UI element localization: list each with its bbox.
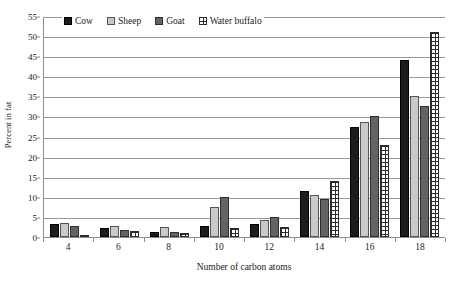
bar-group-18: [395, 17, 445, 237]
x-tick-label-6: 6: [93, 242, 143, 256]
y-tick-label-10: 10: [28, 193, 37, 203]
bar-water-buffalo-12[interactable]: [280, 227, 289, 237]
bar-group-6: [94, 17, 144, 237]
y-tick-label-15: 15: [28, 173, 37, 183]
legend-label-sheep: Sheep: [118, 16, 141, 26]
bar-water-buffalo-10[interactable]: [230, 228, 239, 237]
y-axis-tick-labels: 0510152025303540455055: [16, 12, 40, 238]
y-tick-mark-45: [37, 57, 40, 58]
y-tick-mark-40: [37, 77, 40, 78]
y-tick-label-20: 20: [28, 153, 37, 163]
y-tick-mark-0: [37, 238, 40, 239]
y-tick-mark-5: [37, 217, 40, 218]
x-tick-label-16: 16: [345, 242, 395, 256]
y-tick-mark-20: [37, 157, 40, 158]
bar-goat-10[interactable]: [220, 197, 229, 237]
legend-label-cow: Cow: [75, 16, 93, 26]
bar-cow-16[interactable]: [350, 127, 359, 238]
bar-group-16: [345, 17, 395, 237]
legend-swatch-sheep-icon: [107, 17, 115, 25]
bar-water-buffalo-18[interactable]: [430, 32, 439, 237]
legend-label-goat: Goat: [166, 16, 184, 26]
bar-sheep-4[interactable]: [60, 223, 69, 237]
y-tick-label-25: 25: [28, 133, 37, 143]
y-tick-mark-55: [37, 17, 40, 18]
bar-water-buffalo-8[interactable]: [180, 233, 189, 237]
bar-sheep-14[interactable]: [310, 195, 319, 237]
legend-item-goat[interactable]: Goat: [155, 16, 184, 26]
bar-cow-8[interactable]: [150, 232, 159, 237]
y-tick-label-35: 35: [28, 92, 37, 102]
bar-water-buffalo-4[interactable]: [80, 235, 89, 237]
y-tick-mark-10: [37, 197, 40, 198]
legend-swatch-water-buffalo-icon: [199, 17, 207, 25]
bar-cow-6[interactable]: [100, 228, 109, 237]
y-axis-title: Percent in fat: [0, 0, 16, 250]
legend-swatch-cow-icon: [64, 17, 72, 25]
legend-item-cow[interactable]: Cow: [64, 16, 93, 26]
bar-cow-10[interactable]: [200, 226, 209, 237]
legend-swatch-goat-icon: [155, 17, 163, 25]
bar-group-4: [44, 17, 94, 237]
bar-chart: Percent in fat 0510152025303540455055 46…: [0, 0, 458, 286]
bar-group-12: [245, 17, 295, 237]
bar-group-8: [144, 17, 194, 237]
bar-goat-12[interactable]: [270, 217, 279, 237]
x-tick-label-8: 8: [144, 242, 194, 256]
y-tick-label-55: 55: [28, 12, 37, 22]
y-tick-label-30: 30: [28, 112, 37, 122]
x-tick-label-14: 14: [294, 242, 344, 256]
x-axis-tick-labels: 4681012141618: [43, 242, 445, 256]
y-tick-label-45: 45: [28, 52, 37, 62]
bar-sheep-6[interactable]: [110, 226, 119, 237]
y-tick-mark-25: [37, 137, 40, 138]
legend-item-water-buffalo[interactable]: Water buffalo: [199, 16, 262, 26]
plot-area: [43, 17, 445, 238]
bar-goat-6[interactable]: [120, 230, 129, 237]
bar-sheep-18[interactable]: [410, 96, 419, 237]
y-tick-mark-50: [37, 37, 40, 38]
x-axis-title: Number of carbon atoms: [43, 262, 445, 272]
y-tick-mark-15: [37, 177, 40, 178]
bar-goat-16[interactable]: [370, 116, 379, 237]
bar-water-buffalo-6[interactable]: [130, 231, 139, 237]
x-tick-label-18: 18: [395, 242, 445, 256]
chart-legend: CowSheepGoatWater buffalo: [62, 13, 264, 28]
legend-item-sheep[interactable]: Sheep: [107, 16, 141, 26]
bar-group-14: [295, 17, 345, 237]
x-tick-mark-8: [445, 238, 446, 242]
y-tick-mark-35: [37, 97, 40, 98]
bar-goat-18[interactable]: [420, 106, 429, 237]
bar-goat-14[interactable]: [320, 199, 329, 237]
bar-cow-12[interactable]: [250, 224, 259, 237]
bar-cow-4[interactable]: [50, 224, 59, 237]
y-tick-label-40: 40: [28, 72, 37, 82]
y-tick-mark-30: [37, 117, 40, 118]
x-tick-label-4: 4: [43, 242, 93, 256]
bar-sheep-10[interactable]: [210, 207, 219, 237]
bar-group-10: [194, 17, 244, 237]
bar-goat-4[interactable]: [70, 226, 79, 237]
x-tick-label-10: 10: [194, 242, 244, 256]
bar-cow-18[interactable]: [400, 60, 409, 237]
bar-water-buffalo-16[interactable]: [380, 145, 389, 237]
bars-layer: [44, 17, 445, 237]
x-tick-label-12: 12: [244, 242, 294, 256]
y-tick-label-50: 50: [28, 32, 37, 42]
bar-sheep-8[interactable]: [160, 227, 169, 237]
bar-sheep-16[interactable]: [360, 122, 369, 237]
bar-water-buffalo-14[interactable]: [330, 181, 339, 237]
bar-goat-8[interactable]: [170, 232, 179, 237]
legend-label-water-buffalo: Water buffalo: [210, 16, 262, 26]
y-axis-title-text: Percent in fat: [3, 102, 13, 149]
bar-sheep-12[interactable]: [260, 220, 269, 237]
bar-cow-14[interactable]: [300, 191, 309, 237]
